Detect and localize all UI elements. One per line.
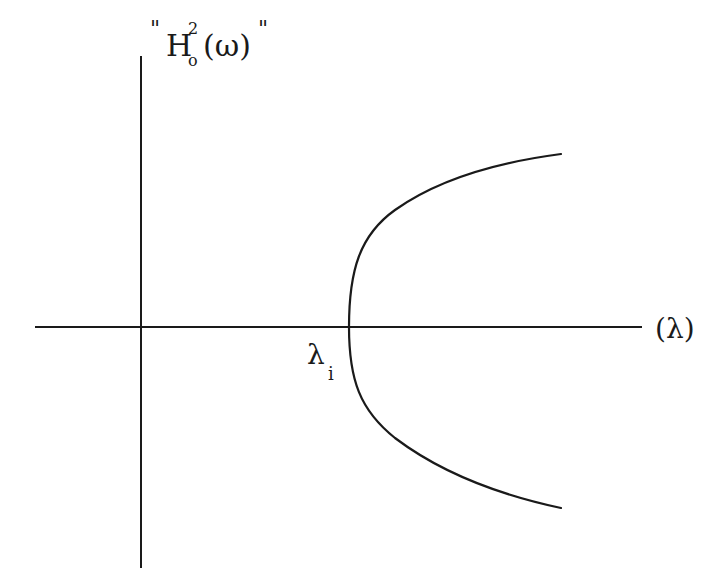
x-axis-label: (λ): [655, 312, 695, 345]
plot-canvas: " H 2 o (ω) " (λ) λ i: [0, 0, 713, 587]
curve-lower-branch: [349, 327, 561, 508]
y-axis-label: " H 2 o (ω) ": [150, 16, 268, 70]
y-label-close-quote: ": [258, 16, 268, 41]
vertex-label-base: λ: [307, 338, 325, 371]
plot-svg: " H 2 o (ω) " (λ) λ i: [0, 0, 713, 587]
y-label-superscript: 2: [188, 19, 198, 38]
y-label-argument: (ω): [203, 28, 251, 63]
vertex-label: λ i: [307, 338, 334, 384]
y-label-subscript: o: [188, 51, 198, 70]
vertex-label-subscript: i: [328, 363, 334, 384]
y-label-open-quote: ": [150, 16, 160, 41]
curve-upper-branch: [349, 154, 561, 327]
